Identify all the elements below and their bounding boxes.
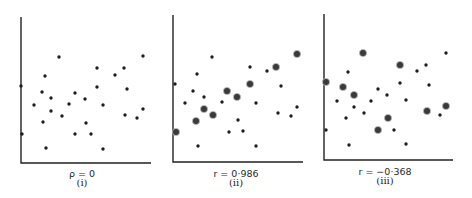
caption-i: (i) bbox=[76, 177, 87, 188]
scatter-panel-iii: r = −0·368 (iii) bbox=[322, 14, 453, 186]
data-point bbox=[73, 91, 76, 94]
points-ii bbox=[172, 50, 300, 147]
data-point bbox=[236, 118, 239, 121]
data-point bbox=[183, 101, 186, 104]
axes-ii bbox=[173, 15, 303, 162]
points-iii bbox=[322, 49, 449, 146]
data-point bbox=[173, 82, 176, 85]
data-point bbox=[122, 66, 125, 69]
points-i bbox=[19, 54, 144, 150]
data-point bbox=[279, 84, 282, 87]
highlighted-data-point bbox=[396, 61, 403, 68]
scatter-figure: ρ = 0 (i) r = 0·986 (ii) r = −0·368 (iii… bbox=[0, 0, 472, 198]
data-point bbox=[424, 63, 427, 66]
highlighted-data-point bbox=[223, 87, 230, 94]
data-point bbox=[32, 103, 35, 106]
data-point bbox=[123, 113, 126, 116]
data-point bbox=[44, 146, 47, 149]
highlighted-data-point bbox=[374, 126, 381, 133]
highlighted-data-point bbox=[339, 83, 346, 90]
data-point bbox=[49, 96, 52, 99]
data-point bbox=[141, 54, 144, 57]
data-point bbox=[57, 55, 60, 58]
data-point bbox=[346, 70, 349, 73]
data-point bbox=[376, 87, 379, 90]
data-point bbox=[95, 85, 98, 88]
data-point bbox=[84, 121, 87, 124]
data-point bbox=[95, 66, 98, 69]
data-point bbox=[40, 90, 43, 93]
highlighted-data-point bbox=[423, 107, 430, 114]
highlighted-data-point bbox=[192, 117, 199, 124]
data-point bbox=[265, 69, 268, 72]
data-point bbox=[295, 105, 298, 108]
data-point bbox=[344, 116, 347, 119]
scatter-panel-i: ρ = 0 (i) bbox=[19, 17, 151, 188]
data-point bbox=[49, 109, 52, 112]
scatter-panel-ii: r = 0·986 (ii) bbox=[172, 15, 303, 188]
data-point bbox=[20, 132, 23, 135]
data-point bbox=[427, 83, 430, 86]
data-point bbox=[335, 99, 338, 102]
data-point bbox=[89, 132, 92, 135]
data-point bbox=[43, 74, 46, 77]
axes-i bbox=[21, 17, 151, 163]
data-point bbox=[101, 147, 104, 150]
data-point bbox=[67, 102, 70, 105]
data-point bbox=[352, 105, 355, 108]
data-point bbox=[276, 111, 279, 114]
highlighted-data-point bbox=[384, 114, 391, 121]
data-point bbox=[248, 65, 251, 68]
data-point bbox=[392, 128, 395, 131]
data-point bbox=[347, 143, 350, 146]
data-point bbox=[125, 87, 128, 90]
data-point bbox=[101, 103, 104, 106]
data-point bbox=[19, 84, 22, 87]
data-point bbox=[398, 81, 401, 84]
highlighted-data-point bbox=[209, 111, 216, 118]
data-point bbox=[438, 113, 441, 116]
data-point bbox=[254, 144, 257, 147]
data-point bbox=[41, 120, 44, 123]
highlighted-data-point bbox=[200, 105, 207, 112]
data-point bbox=[254, 101, 257, 104]
data-point bbox=[444, 51, 447, 54]
data-point bbox=[210, 55, 213, 58]
data-point bbox=[83, 97, 86, 100]
highlighted-data-point bbox=[272, 63, 279, 70]
caption-iii: (iii) bbox=[376, 175, 393, 186]
data-point bbox=[404, 98, 407, 101]
data-point bbox=[191, 89, 194, 92]
data-point bbox=[196, 144, 199, 147]
highlighted-data-point bbox=[442, 102, 449, 109]
data-point bbox=[289, 114, 292, 117]
data-point bbox=[415, 69, 418, 72]
data-point bbox=[385, 93, 388, 96]
data-point bbox=[113, 73, 116, 76]
data-point bbox=[73, 132, 76, 135]
data-point bbox=[324, 128, 327, 131]
highlighted-data-point bbox=[246, 80, 253, 87]
data-point bbox=[241, 129, 244, 132]
highlighted-data-point bbox=[359, 49, 366, 56]
highlighted-data-point bbox=[293, 50, 300, 57]
data-point bbox=[202, 95, 205, 98]
caption-ii: (ii) bbox=[229, 177, 243, 188]
data-point bbox=[369, 99, 372, 102]
data-point bbox=[60, 114, 63, 117]
data-point bbox=[404, 142, 407, 145]
highlighted-data-point bbox=[233, 93, 240, 100]
data-point bbox=[220, 100, 223, 103]
data-point bbox=[227, 130, 230, 133]
highlighted-data-point bbox=[350, 91, 357, 98]
data-point bbox=[135, 116, 138, 119]
data-point bbox=[141, 107, 144, 110]
highlighted-data-point bbox=[322, 78, 329, 85]
highlighted-data-point bbox=[172, 128, 179, 135]
data-point bbox=[362, 111, 365, 114]
data-point bbox=[195, 72, 198, 75]
